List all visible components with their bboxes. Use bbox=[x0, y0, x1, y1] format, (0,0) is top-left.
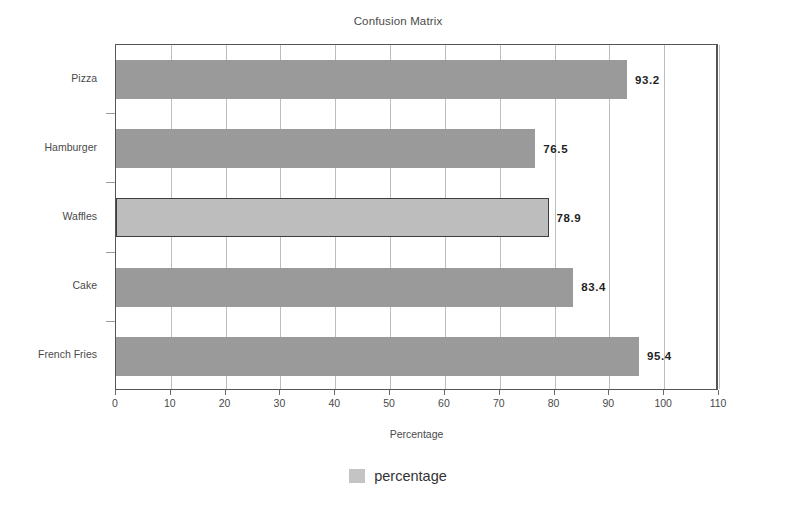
x-axis-tick-label: 70 bbox=[493, 397, 505, 409]
x-axis-tick bbox=[554, 390, 555, 395]
x-axis-tick-label: 10 bbox=[164, 397, 176, 409]
y-axis-tick bbox=[106, 182, 115, 183]
y-axis-tick bbox=[106, 321, 115, 322]
bar-row: 76.5 bbox=[116, 114, 716, 183]
legend-label: percentage bbox=[374, 468, 447, 484]
x-axis-tick-label: 100 bbox=[654, 397, 672, 409]
x-axis-tick bbox=[718, 390, 719, 395]
bar-value-label: 93.2 bbox=[635, 74, 660, 86]
x-axis-tick bbox=[499, 390, 500, 395]
bar-chart: Confusion Matrix PizzaHamburgerWafflesCa… bbox=[0, 0, 796, 514]
x-axis-tick bbox=[170, 390, 171, 395]
x-axis-tick-label: 80 bbox=[548, 397, 560, 409]
x-axis-tick-label: 110 bbox=[710, 397, 727, 409]
bar-row: 83.4 bbox=[116, 253, 716, 322]
bar-value-label: 76.5 bbox=[543, 143, 568, 155]
x-axis-tick bbox=[444, 390, 445, 395]
chart-legend: percentage bbox=[0, 468, 796, 484]
x-axis-tick-label: 90 bbox=[603, 397, 615, 409]
x-axis-tick bbox=[279, 390, 280, 395]
bar[interactable] bbox=[116, 129, 535, 168]
bar-value-label: 83.4 bbox=[581, 281, 606, 293]
x-axis-tick-label: 0 bbox=[112, 397, 118, 409]
bar[interactable] bbox=[116, 198, 549, 237]
y-axis-category-label: Hamburger bbox=[0, 141, 97, 153]
bar-value-label: 95.4 bbox=[647, 350, 672, 362]
x-axis-title: Percentage bbox=[115, 428, 718, 440]
x-axis-tick-label: 40 bbox=[328, 397, 340, 409]
x-axis-tick bbox=[608, 390, 609, 395]
bar[interactable] bbox=[116, 60, 627, 99]
bar-value-label: 78.9 bbox=[557, 212, 582, 224]
x-axis-tick-labels: 0102030405060708090100110 bbox=[115, 397, 718, 413]
bar-row: 95.4 bbox=[116, 322, 716, 391]
bar-row: 78.9 bbox=[116, 183, 716, 252]
legend-color-swatch bbox=[349, 469, 365, 483]
bar-row: 93.2 bbox=[116, 45, 716, 114]
y-axis-category-label: Pizza bbox=[0, 72, 97, 84]
x-axis-ticks bbox=[115, 390, 718, 396]
x-axis-tick-label: 30 bbox=[274, 397, 286, 409]
y-axis-category-label: Waffles bbox=[0, 210, 97, 222]
y-axis-category-label: French Fries bbox=[0, 348, 97, 360]
x-axis-tick bbox=[389, 390, 390, 395]
x-axis-tick bbox=[225, 390, 226, 395]
y-axis-tick bbox=[106, 113, 115, 114]
x-axis-tick bbox=[663, 390, 664, 395]
x-axis-tick-label: 50 bbox=[383, 397, 395, 409]
bars-layer: 93.276.578.983.495.4 bbox=[116, 45, 716, 389]
y-axis-tick bbox=[106, 252, 115, 253]
bar[interactable] bbox=[116, 337, 639, 376]
x-axis-tick bbox=[115, 390, 116, 395]
x-axis-tick bbox=[334, 390, 335, 395]
y-axis-category-label: Cake bbox=[0, 279, 97, 291]
x-axis-tick-label: 60 bbox=[438, 397, 450, 409]
chart-title: Confusion Matrix bbox=[0, 15, 796, 27]
x-axis-tick-label: 20 bbox=[219, 397, 231, 409]
bar[interactable] bbox=[116, 268, 573, 307]
plot-area: 93.276.578.983.495.4 bbox=[115, 44, 718, 390]
